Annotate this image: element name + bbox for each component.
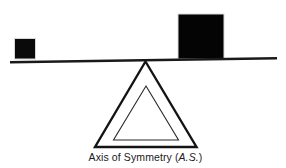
balance-scale-diagram: Axis of Symmetry (A.S.)	[0, 0, 286, 168]
diagram-background	[0, 0, 286, 168]
figure-canvas: Axis of Symmetry (A.S.)	[0, 0, 286, 168]
axis-of-symmetry-caption: Axis of Symmetry (A.S.)	[89, 151, 203, 163]
large-block	[178, 14, 224, 59]
small-block	[15, 39, 36, 60]
caption-suffix: )	[199, 151, 203, 163]
caption-abbreviation: A.S.	[178, 151, 199, 163]
caption-prefix: Axis of Symmetry (	[89, 151, 179, 163]
